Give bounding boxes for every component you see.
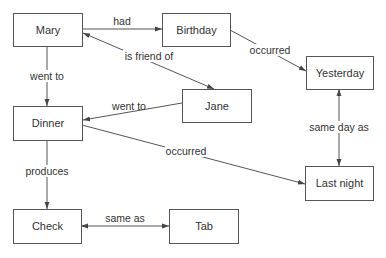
node-label-yesterday: Yesterday	[316, 67, 365, 79]
node-check: Check	[14, 210, 82, 244]
edge-label-occurred-dinner: occurred	[166, 145, 207, 157]
edge-label-occurred-birthday: occurred	[250, 44, 291, 56]
node-yesterday: Yesterday	[307, 57, 374, 90]
node-label-mary: Mary	[36, 24, 61, 36]
node-label-birthday: Birthday	[176, 24, 217, 36]
edge-label-same-as: same as	[105, 212, 145, 224]
node-mary: Mary	[14, 14, 83, 47]
edge-label-is-friend-of: is friend of	[125, 50, 174, 62]
node-jane: Jane	[183, 90, 252, 123]
edge-label-went-to-mary: went to	[29, 70, 64, 82]
edge-label-produces: produces	[25, 165, 68, 177]
node-tab: Tab	[170, 210, 239, 244]
node-birthday: Birthday	[163, 14, 231, 47]
edge-label-went-to-jane: went to	[111, 100, 146, 112]
node-label-tab: Tab	[195, 220, 213, 232]
node-label-jane: Jane	[205, 100, 229, 112]
node-label-last-night: Last night	[316, 177, 364, 189]
node-dinner: Dinner	[14, 107, 83, 141]
semantic-network-diagram: had is friend of occurred went to went t…	[0, 0, 386, 258]
node-last-night: Last night	[306, 167, 374, 201]
edge-label-had: had	[113, 15, 131, 27]
edge-label-same-day-as: same day as	[309, 121, 369, 133]
node-label-dinner: Dinner	[32, 117, 65, 129]
node-label-check: Check	[32, 220, 64, 232]
